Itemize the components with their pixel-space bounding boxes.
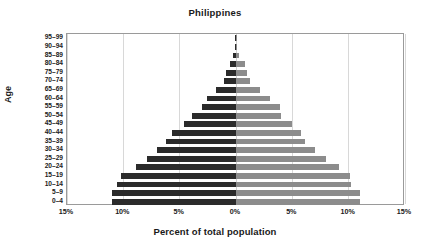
bar-row bbox=[67, 121, 403, 127]
bar-right bbox=[236, 121, 292, 127]
y-tick-label: 65–69 bbox=[3, 85, 63, 92]
x-tick-label: 10% bbox=[102, 207, 142, 216]
y-tick-label: 95–99 bbox=[3, 33, 63, 40]
y-axis-tick-labels: 0–45–910–1415–1920–2425–2930–3435–3940–4… bbox=[0, 33, 63, 205]
y-tick-label: 35–39 bbox=[3, 137, 63, 144]
bar-left bbox=[147, 156, 236, 162]
y-tick-label: 20–24 bbox=[3, 162, 63, 169]
bar-right bbox=[236, 139, 305, 145]
bar-right bbox=[236, 147, 315, 153]
bar-left bbox=[112, 199, 236, 205]
y-tick-label: 50–54 bbox=[3, 111, 63, 118]
gridline-15 bbox=[405, 34, 406, 204]
y-tick-label: 15–19 bbox=[3, 171, 63, 178]
x-tick-label: 0% bbox=[215, 207, 255, 216]
bar-left bbox=[166, 139, 236, 145]
y-tick-label: 85–89 bbox=[3, 51, 63, 58]
bar-row bbox=[67, 53, 403, 59]
bar-row bbox=[67, 190, 403, 196]
y-tick-label: 30–34 bbox=[3, 145, 63, 152]
y-tick-label: 10–14 bbox=[3, 180, 63, 187]
y-tick-label: 5–9 bbox=[3, 188, 63, 195]
bar-right bbox=[236, 35, 237, 41]
bar-row bbox=[67, 173, 403, 179]
bar-row bbox=[67, 87, 403, 93]
bar-right bbox=[236, 173, 350, 179]
bar-left bbox=[202, 104, 236, 110]
bar-right bbox=[236, 130, 301, 136]
bar-left bbox=[112, 190, 236, 196]
bar-left bbox=[207, 96, 236, 102]
y-tick-label: 70–74 bbox=[3, 76, 63, 83]
bar-right bbox=[236, 113, 281, 119]
bar-right bbox=[236, 78, 250, 84]
bar-right bbox=[236, 182, 351, 188]
x-axis-label: Percent of total population bbox=[0, 226, 430, 237]
bar-left bbox=[157, 147, 236, 153]
bar-left bbox=[224, 78, 236, 84]
bar-right bbox=[236, 96, 270, 102]
chart-title: Philippines bbox=[0, 7, 430, 18]
bar-row bbox=[67, 96, 403, 102]
x-axis-tick-labels: 15%10%5%0%5%10%15% bbox=[0, 207, 430, 221]
bar-row bbox=[67, 199, 403, 205]
bar-right bbox=[236, 70, 247, 76]
x-tick-label: 5% bbox=[159, 207, 199, 216]
x-tick-label: 15% bbox=[46, 207, 86, 216]
y-tick-label: 0–4 bbox=[3, 197, 63, 204]
bar-left bbox=[136, 164, 236, 170]
bar-left bbox=[184, 121, 236, 127]
bar-row bbox=[67, 113, 403, 119]
y-tick-label: 45–49 bbox=[3, 119, 63, 126]
y-tick-label: 60–64 bbox=[3, 94, 63, 101]
y-tick-label: 40–44 bbox=[3, 128, 63, 135]
x-tick-label: 5% bbox=[271, 207, 311, 216]
bar-row bbox=[67, 139, 403, 145]
bar-row bbox=[67, 147, 403, 153]
bar-left bbox=[216, 87, 236, 93]
y-tick-label: 90–94 bbox=[3, 42, 63, 49]
bar-left bbox=[121, 173, 236, 179]
bar-left bbox=[192, 113, 236, 119]
bar-left bbox=[226, 70, 236, 76]
x-tick-label: 15% bbox=[384, 207, 424, 216]
bar-right bbox=[236, 199, 360, 205]
bar-right bbox=[236, 44, 237, 50]
bar-row bbox=[67, 70, 403, 76]
bar-left bbox=[117, 182, 236, 188]
population-pyramid-chart: Philippines Age 0–45–910–1415–1920–2425–… bbox=[0, 0, 430, 248]
bar-row bbox=[67, 35, 403, 41]
bar-row bbox=[67, 78, 403, 84]
bar-right bbox=[236, 61, 245, 67]
bar-left bbox=[172, 130, 236, 136]
bar-right bbox=[236, 104, 280, 110]
bar-row bbox=[67, 104, 403, 110]
bar-right bbox=[236, 156, 326, 162]
bar-right bbox=[236, 190, 360, 196]
bar-row bbox=[67, 44, 403, 50]
bar-row bbox=[67, 182, 403, 188]
bar-right bbox=[236, 87, 260, 93]
bar-row bbox=[67, 61, 403, 67]
y-tick-label: 75–79 bbox=[3, 68, 63, 75]
y-tick-label: 25–29 bbox=[3, 154, 63, 161]
bar-right bbox=[236, 53, 239, 59]
bar-row bbox=[67, 130, 403, 136]
y-tick-label: 80–84 bbox=[3, 59, 63, 66]
plot-area bbox=[66, 33, 404, 205]
bar-right bbox=[236, 164, 339, 170]
bar-row bbox=[67, 164, 403, 170]
y-tick-label: 55–59 bbox=[3, 102, 63, 109]
bar-row bbox=[67, 156, 403, 162]
x-tick-label: 10% bbox=[328, 207, 368, 216]
